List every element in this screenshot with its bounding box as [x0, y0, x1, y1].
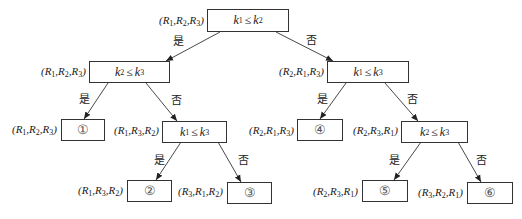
key-index: 3 [445, 128, 449, 137]
record-tuple: (R2,R3,R1) [353, 124, 398, 138]
key-index: 3 [379, 68, 383, 77]
edge-label-yes: 是 [173, 32, 184, 48]
edge-label-yes: 是 [154, 151, 165, 167]
leaf-node-4: ④ [297, 119, 343, 141]
key-index: 2 [425, 128, 429, 137]
decision-node-left: k2≤k3 [89, 61, 170, 83]
record-tuple: (R2,R1,R3) [279, 65, 324, 79]
key-index: 3 [205, 128, 209, 137]
decision-node-root: k1≤k2 [207, 9, 289, 32]
record-tuple: (R1,R3,R2) [114, 124, 159, 138]
key-index: 2 [120, 68, 124, 77]
leaf-node-5: ⑤ [362, 180, 408, 202]
key-index: 1 [239, 16, 243, 25]
edge-label-no: 否 [238, 151, 249, 167]
record-tuple: (R2,R3,R1) [313, 185, 358, 199]
edge-label-no: 否 [306, 31, 317, 47]
edge-label-yes: 是 [389, 151, 400, 167]
record-tuple: (R3,R1,R2) [178, 185, 223, 199]
record-tuple: (R1,R3,R2) [78, 184, 123, 198]
decision-node-left-right: k1≤k3 [162, 121, 227, 143]
edge-root-to-right [276, 32, 333, 61]
leaf-node-1: ① [61, 119, 105, 141]
key-index: 2 [259, 16, 263, 25]
record-tuple: (R1,R2,R3) [159, 14, 204, 28]
record-tuple: (R1,R2,R3) [41, 65, 86, 79]
leaf-node-6: ⑥ [467, 182, 513, 204]
key-index: 1 [359, 68, 363, 77]
key-index: 3 [140, 68, 144, 77]
decision-node-right-right: k2≤k3 [401, 121, 468, 143]
edge-label-yes: 是 [317, 90, 328, 106]
edge-label-no: 否 [171, 91, 182, 107]
record-tuple: (R1,R2,R3) [12, 123, 57, 137]
leaf-node-3: ③ [227, 182, 272, 204]
leaf-node-2: ② [127, 180, 172, 202]
edge-label-no: 否 [476, 151, 487, 167]
edge-label-yes: 是 [79, 90, 90, 106]
record-tuple: (R2,R1,R3) [249, 124, 294, 138]
record-tuple: (R3,R2,R1) [418, 186, 463, 200]
key-index: 1 [185, 128, 189, 137]
decision-node-right: k1≤k3 [327, 61, 409, 83]
edge-label-no: 否 [407, 90, 418, 106]
